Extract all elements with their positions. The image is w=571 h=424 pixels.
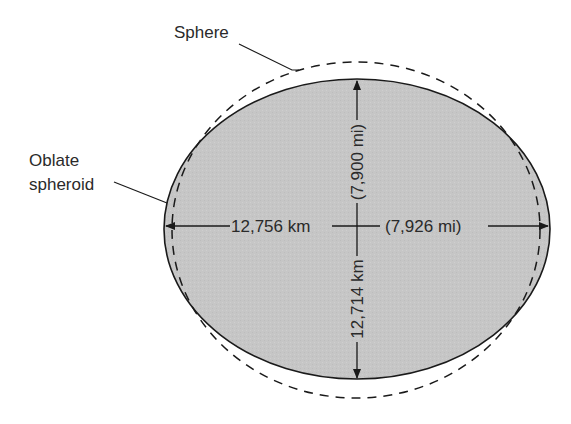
equatorial-mi-label: (7,926 mi) <box>385 217 462 236</box>
polar-mi-label: (7,900 mi) <box>348 124 367 201</box>
oblate-label-line2: spheroid <box>29 175 94 194</box>
equatorial-km-label: 12,756 km <box>231 217 310 236</box>
oblate-spheroid-diagram: 12,756 km (7,926 mi) (7,900 mi) 12,714 k… <box>0 0 571 424</box>
sphere-label: Sphere <box>174 23 229 42</box>
oblate-label-line1: Oblate <box>29 151 79 170</box>
oblate-leader-line <box>114 182 167 203</box>
polar-km-label: 12,714 km <box>348 259 367 338</box>
sphere-leader-line <box>239 44 299 70</box>
